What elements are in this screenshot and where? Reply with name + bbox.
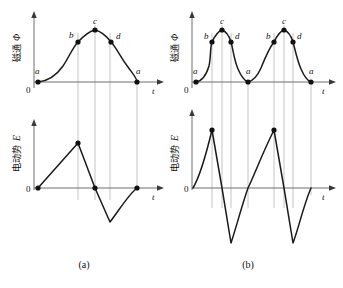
panel-a-flux-y-axis-symbol: Φ [12, 34, 22, 41]
panel-a-emf-y-arrow [31, 119, 36, 126]
panel-b-flux-curve [196, 30, 311, 82]
panel-a-flux-y-axis-label: 磁通 Φ [11, 34, 22, 62]
panel-b-flux-label-c2: c [282, 16, 286, 26]
panel-a-guidelines [78, 25, 137, 200]
panel-a-emf-point-a1 [35, 185, 40, 190]
panel-a-flux-y-axis-text: 磁通 [11, 44, 22, 62]
panel-b-flux-x-arrow [329, 79, 336, 84]
panel-b-flux-y-arrow [189, 11, 194, 18]
panel-b-flux-label-d1: d [235, 31, 240, 41]
panel-a-emf-y-axis-label: 电动势 E [11, 135, 22, 172]
panel-b-emf-y-arrow [189, 109, 194, 116]
panel-a-flux-label-d: d [116, 31, 121, 41]
panel-b-emf-x-axis-label: t [322, 192, 325, 202]
panel-b-flux-label-c1: c [220, 16, 224, 26]
panel-a-emf-y-axis-symbol: E [12, 135, 22, 142]
panel-b-flux-label-a2: a [246, 66, 251, 76]
panel-b-emf-peak-2 [271, 127, 276, 132]
panel-a-emf-point-b [75, 140, 80, 145]
panel-b-flux-label-a1: a [193, 66, 198, 76]
panel-a-emf-x-axis-label: t [152, 192, 155, 202]
panel-b-emf-y-axis-label: 电动势 E [169, 135, 180, 172]
panel-b-flux-point-d1 [228, 39, 233, 44]
physics-figure: a b c d a t 0 磁通 Φ [0, 0, 343, 288]
panel-a-emf-origin-label: 0 [26, 184, 31, 194]
panel-b-flux-point-d2 [290, 39, 295, 44]
panel-a-flux-curve [38, 30, 137, 82]
panel-a-flux-origin-label: 0 [26, 85, 31, 95]
panel-a-flux-point-a1 [35, 79, 40, 84]
panel-b-emf-origin-label: 0 [184, 184, 189, 194]
panel-b-flux-label-b1: b [204, 31, 209, 41]
panel-a-flux-label-a1: a [35, 66, 40, 76]
panel-a-flux-x-arrow [157, 79, 164, 84]
panel-a-emf-chart: t 0 电动势 E [11, 119, 164, 222]
panel-b-flux-y-axis-symbol: Φ [170, 34, 180, 41]
panel-b-flux-y-axis-text: 磁通 [169, 44, 180, 62]
panel-a-emf-y-axis-text: 电动势 [11, 145, 22, 172]
panel-a-flux-point-d [108, 39, 113, 44]
panel-b-flux-point-c2 [281, 27, 286, 32]
panel-a-emf-x-arrow [157, 185, 164, 190]
panel-b-flux-label-d2: d [297, 31, 302, 41]
panel-a-flux-x-axis-label: t [152, 86, 155, 96]
panel-b-emf-x-arrow [329, 185, 336, 190]
panel-a-flux-label-a2: a [136, 66, 141, 76]
panel-a-flux-point-a2 [134, 79, 139, 84]
panel-b-flux-point-a1 [193, 79, 198, 84]
panel-b-flux-point-a3 [308, 79, 313, 84]
panel-a-flux-point-c [92, 27, 97, 32]
panel-b-flux-origin-label: 0 [184, 85, 189, 95]
panel-b-caption: (b) [242, 259, 254, 271]
panel-b-emf-peak-1 [209, 127, 214, 132]
panel-b-flux-point-a2 [245, 79, 250, 84]
panel-a-flux-label-c: c [93, 16, 97, 26]
panel-a-caption: (a) [78, 259, 89, 271]
panel-a-emf-point-a2 [134, 185, 139, 190]
panel-b-emf-y-axis-text: 电动势 [169, 145, 180, 172]
panel-a: a b c d a t 0 磁通 Φ [11, 11, 164, 271]
panel-b-flux-point-c1 [219, 27, 224, 32]
panel-a-flux-point-b [75, 39, 80, 44]
panel-b-flux-y-axis-label: 磁通 Φ [169, 34, 180, 62]
panel-b-flux-label-b2: b [266, 31, 271, 41]
panel-b-flux-point-b1 [209, 39, 214, 44]
panel-a-flux-y-arrow [31, 11, 36, 18]
panel-b-emf-y-axis-symbol: E [170, 135, 180, 142]
panel-a-emf-curve [38, 143, 137, 222]
panel-b: a b c d a b c d a t 0 磁通 Φ [169, 11, 336, 271]
panel-b-flux-point-b2 [271, 39, 276, 44]
panel-b-flux-label-a3: a [309, 66, 314, 76]
panel-b-flux-x-axis-label: t [322, 86, 325, 96]
panel-a-emf-point-c [92, 185, 97, 190]
panel-a-flux-label-b: b [69, 30, 74, 40]
figure-svg: a b c d a t 0 磁通 Φ [0, 0, 343, 288]
